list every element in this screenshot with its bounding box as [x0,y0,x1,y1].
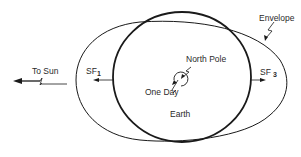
one-day-label: One Day [145,87,179,97]
north-pole-label: North Pole [186,54,226,64]
sf3-arrow [251,78,266,82]
envelope-pointer-arrow [264,22,274,41]
to-sun-arrow [13,78,67,85]
sf1-label: SF1 [86,66,101,76]
sf3-label-sub: 3 [273,71,277,78]
earth-label: Earth [170,109,190,119]
sf3-label-main: SF [260,67,271,77]
earth-envelope-diagram [0,0,301,157]
envelope-curve [76,21,287,141]
sf3-label: SF3 [260,67,277,77]
envelope-label: Envelope [259,13,294,23]
sf1-label-main: SF [86,66,97,76]
to-sun-label: To Sun [32,66,58,76]
sf1-label-sub: 1 [97,70,101,77]
sf1-arrow [93,78,113,82]
north-pole-pointer [181,67,191,79]
